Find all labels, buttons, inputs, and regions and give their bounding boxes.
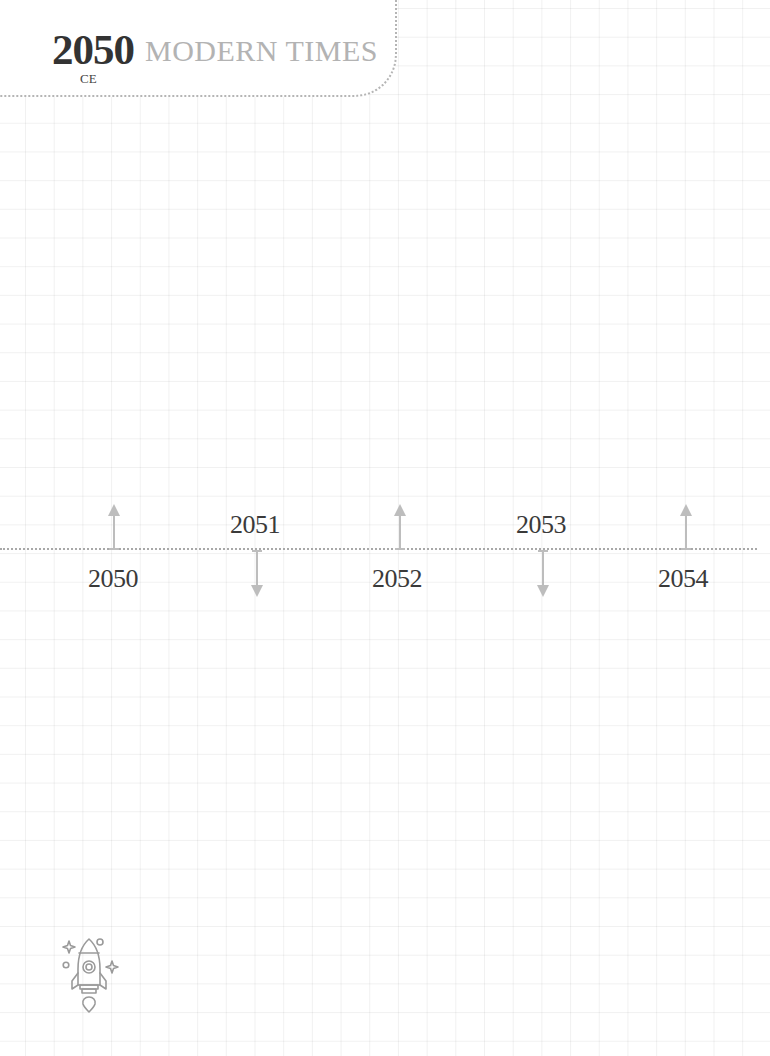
arrow-up-icon: [390, 504, 410, 551]
timeline-year-label: 2051: [210, 512, 300, 538]
timeline-year-label: 2050: [68, 566, 158, 592]
arrow-down-icon: [533, 549, 553, 597]
timeline-year-label: 2053: [496, 512, 586, 538]
timeline-year-label: 2052: [352, 566, 442, 592]
era-title: MODERN TIMES: [145, 36, 378, 66]
era-suffix: CE: [80, 72, 97, 85]
arrow-up-icon: [104, 504, 124, 551]
era-year: 2050: [52, 28, 134, 71]
timeline-year-label: 2054: [638, 566, 728, 592]
rocket-icon: [58, 935, 120, 1015]
arrow-down-icon: [247, 549, 267, 597]
arrow-up-icon: [676, 504, 696, 551]
